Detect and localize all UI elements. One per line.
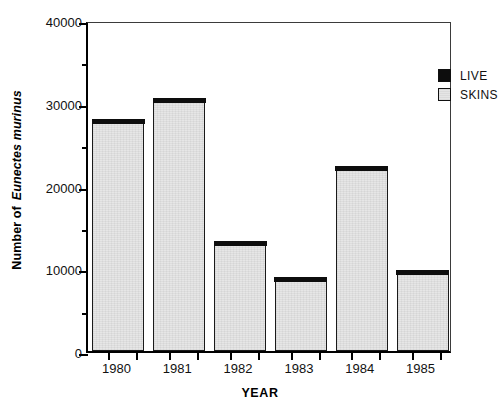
y-axis-tick-label: 0	[24, 347, 82, 360]
bar-live-segment-1985	[396, 270, 449, 275]
x-axis-tick	[379, 351, 381, 360]
bar-1981	[153, 99, 205, 351]
legend-item-live: LIVE	[438, 67, 502, 84]
plot-area: LIVE SKINS	[86, 22, 451, 353]
x-axis-tick	[108, 351, 110, 360]
x-axis-tick-label-1983: 1983	[269, 361, 330, 376]
y-axis-tick-label: 20000	[24, 181, 82, 194]
x-axis-tick	[319, 351, 321, 360]
bar-1982	[214, 242, 266, 351]
bar-live-segment-1981	[153, 98, 206, 103]
bar-1985	[397, 271, 449, 351]
legend-item-skins: SKINS	[438, 86, 502, 103]
y-axis-major-tick	[79, 189, 88, 191]
x-axis-tick	[169, 351, 171, 360]
bar-1983	[275, 277, 327, 351]
bar-1980	[92, 119, 144, 351]
y-axis-minor-tick	[82, 313, 88, 315]
y-axis-major-tick	[79, 106, 88, 108]
y-axis-major-tick	[79, 23, 88, 25]
x-axis-title: YEAR	[0, 386, 468, 400]
x-axis-tick-label-1981: 1981	[147, 361, 208, 376]
x-axis-tick	[351, 351, 353, 360]
legend-label-live: LIVE	[460, 69, 488, 83]
y-axis-minor-tick	[82, 147, 88, 149]
legend-swatch-skins-icon	[438, 88, 451, 101]
bar-1984	[336, 166, 388, 351]
y-axis-major-tick	[79, 271, 88, 273]
y-axis-minor-tick	[82, 230, 88, 232]
x-axis-tick	[197, 351, 199, 360]
x-axis-tick-label-1985: 1985	[390, 361, 451, 376]
y-axis-major-tick	[79, 354, 88, 356]
chart-legend: LIVE SKINS	[438, 67, 502, 105]
x-axis-title-text: YEAR	[241, 386, 278, 400]
y-axis-tick-label: 10000	[24, 264, 82, 277]
x-axis-tick	[440, 351, 442, 360]
legend-swatch-live-icon	[438, 69, 451, 82]
legend-label-skins: SKINS	[460, 88, 498, 102]
y-axis-title-prefix: Number of	[10, 206, 24, 269]
bar-live-segment-1982	[214, 241, 267, 246]
x-axis-tick-label-1982: 1982	[208, 361, 269, 376]
y-axis-tick-label: 30000	[24, 98, 82, 111]
x-axis-tick	[412, 351, 414, 360]
bar-live-segment-1983	[274, 277, 327, 282]
bar-live-segment-1984	[335, 166, 388, 171]
y-axis-tick-label: 40000	[24, 16, 82, 29]
x-axis-tick	[291, 351, 293, 360]
x-axis-tick	[230, 351, 232, 360]
y-axis-minor-tick	[82, 64, 88, 66]
x-axis-tick-label-1984: 1984	[329, 361, 390, 376]
x-axis-tick	[136, 351, 138, 360]
y-axis-title-species: Eunectes murinus	[10, 90, 24, 200]
x-axis-tick-label-1980: 1980	[86, 361, 147, 376]
bar-live-segment-1980	[92, 119, 145, 124]
x-axis-tick	[258, 351, 260, 360]
y-axis-title-text: Number ofEunectes murinus	[10, 90, 24, 269]
y-axis-tick-labels: 010000200003000040000	[24, 0, 82, 415]
